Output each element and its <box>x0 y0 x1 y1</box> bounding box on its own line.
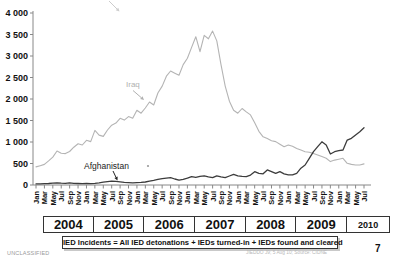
year-cell-2007: 2007 <box>195 216 246 233</box>
year-cell-2005: 2005 <box>94 216 145 233</box>
slide: 05001 0001 5002 0002 5003 0003 5004 000J… <box>0 0 394 266</box>
stray-dot <box>147 165 149 167</box>
cropped-annotation-arrow <box>109 1 117 9</box>
y-tick-label: 1 500 <box>5 116 28 126</box>
year-cell-2008: 2008 <box>246 216 297 233</box>
year-cell-2009: 2009 <box>296 216 347 233</box>
y-tick-label: 2 000 <box>5 94 28 104</box>
afghanistan-series-line <box>36 128 364 184</box>
iraq-annotation-arrow <box>133 91 141 98</box>
y-tick-label: 500 <box>13 159 28 169</box>
classification-marking: UNCLASSIFIED <box>7 250 49 256</box>
y-tick-label: 2 500 <box>5 73 28 83</box>
source-note: JIEDDO J9; 5 Aug 10; Source: CIDNE <box>246 250 327 255</box>
caption-text: IED Incidents = All IED detonations + IE… <box>63 238 343 247</box>
year-cell-2004: 2004 <box>43 216 94 233</box>
iraq-series-line <box>36 31 364 167</box>
year-axis-row: 2004200520062007200820092010 <box>43 216 390 233</box>
y-tick-label: 0 <box>23 180 28 190</box>
page-number: 7 <box>375 243 381 254</box>
year-cell-2010: 2010 <box>347 216 390 233</box>
x-tick-label: Jul <box>360 191 369 202</box>
afghanistan-annotation-label: Afghanistan <box>84 161 129 171</box>
y-tick-label: 3 000 <box>5 51 28 61</box>
y-tick-label: 3 500 <box>5 30 28 40</box>
afghanistan-annotation-arrow <box>113 171 116 177</box>
y-tick-label: 1 000 <box>5 137 28 147</box>
y-tick-label: 4 000 <box>5 8 28 18</box>
caption-box: IED Incidents = All IED detonations + IE… <box>62 236 338 249</box>
year-cell-2006: 2006 <box>144 216 195 233</box>
iraq-annotation-label: Iraq <box>126 80 140 89</box>
